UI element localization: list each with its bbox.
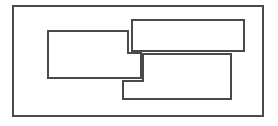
diagram-canvas — [0, 0, 278, 126]
background — [0, 0, 278, 126]
